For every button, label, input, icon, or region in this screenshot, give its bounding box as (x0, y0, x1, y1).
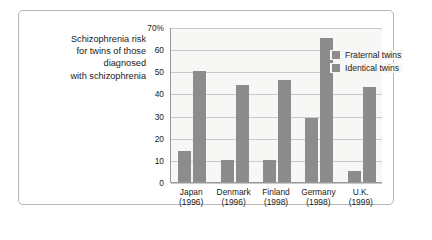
caption-line-4: with schizophrenia (24, 70, 146, 82)
x-axis-tick-label: Denmark(1996) (212, 187, 254, 208)
y-axis-tick-label: 30 (155, 112, 164, 122)
y-axis-labels: 010203040506070% (131, 28, 167, 183)
y-axis-tick-label: 40 (155, 89, 164, 99)
x-axis-tick-label: U.K.(1999) (340, 187, 382, 208)
bar-uk-fraternal (348, 171, 361, 182)
bar-group (171, 28, 213, 182)
legend-swatch-icon (332, 51, 340, 59)
x-axis-tick-label: Finland(1998) (255, 187, 297, 208)
x-axis-tick-label: Japan(1996) (170, 187, 212, 208)
bar-finland-identical (278, 80, 291, 182)
bar-denmark-identical (236, 85, 249, 182)
legend-item-label: Fraternal twins (345, 50, 401, 60)
x-axis-country: U.K. (340, 187, 382, 197)
gridline (171, 183, 382, 184)
legend-item-label: Identical twins (345, 63, 399, 73)
legend-item-identical: Identical twins (330, 63, 403, 73)
x-axis-year: (1996) (212, 197, 254, 207)
caption-line-1: Schizophrenia risk (24, 33, 146, 45)
figure-frame: Schizophrenia risk for twins of those di… (18, 10, 394, 205)
x-axis-tick-label: Germany(1998) (297, 187, 339, 208)
bar-japan-fraternal (178, 151, 191, 182)
y-axis-tick-label: 70% (147, 23, 164, 33)
x-axis-country: Japan (170, 187, 212, 197)
chart-legend: Fraternal twins Identical twins (330, 50, 403, 73)
x-axis-year: (1999) (340, 197, 382, 207)
bar-germany-fraternal (305, 118, 318, 182)
x-axis-country: Germany (297, 187, 339, 197)
bar-japan-identical (193, 71, 206, 182)
plot-area: Fraternal twins Identical twins (170, 28, 382, 183)
caption-line-3: diagnosed (24, 57, 146, 69)
caption-line-2: for twins of those (24, 45, 146, 57)
bar-uk-identical (363, 87, 376, 182)
bar-denmark-fraternal (221, 160, 234, 182)
chart-caption: Schizophrenia risk for twins of those di… (24, 33, 146, 82)
x-axis-year: (1998) (297, 197, 339, 207)
bar-group (256, 28, 298, 182)
y-axis-tick-label: 60 (155, 45, 164, 55)
y-axis-tick-label: 50 (155, 67, 164, 77)
legend-swatch-icon (332, 64, 340, 72)
x-axis-country: Finland (255, 187, 297, 197)
bar-group (213, 28, 255, 182)
legend-item-fraternal: Fraternal twins (330, 50, 403, 60)
y-axis-tick-label: 20 (155, 134, 164, 144)
y-axis-tick-label: 10 (155, 156, 164, 166)
x-axis-year: (1996) (170, 197, 212, 207)
bar-finland-fraternal (263, 160, 276, 182)
x-axis-country: Denmark (212, 187, 254, 197)
x-axis-year: (1998) (255, 197, 297, 207)
x-axis-labels: Japan(1996)Denmark(1996)Finland(1998)Ger… (170, 187, 382, 211)
y-axis-tick-label: 0 (159, 178, 164, 188)
